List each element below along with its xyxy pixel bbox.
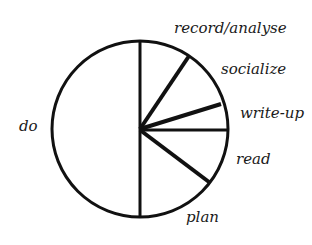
label-read: read [236,152,271,167]
label-do: do [19,119,38,134]
label-socialize: socialize [221,62,286,77]
pie-chart: record/analyse socialize write-up read p… [0,0,312,245]
label-record-analyse: record/analyse [174,21,287,36]
label-plan: plan [186,210,219,225]
label-write-up: write-up [240,106,304,121]
